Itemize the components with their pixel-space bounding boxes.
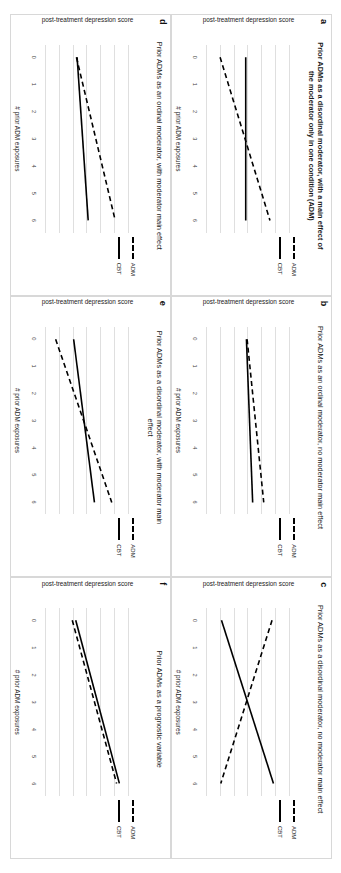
x-tick-label: 0 xyxy=(31,56,37,59)
x-tick-label: 2 xyxy=(192,392,198,395)
legend-label-cbt: CBT xyxy=(116,263,122,275)
x-tick-label: 2 xyxy=(31,110,37,113)
x-axis-ticks-c: 0123456 xyxy=(188,608,198,796)
legend-swatch-adm xyxy=(132,237,134,259)
series-layer-b xyxy=(200,327,297,515)
panel-letter-c: c xyxy=(319,582,329,587)
panel-e: ePrior ADMs as a disordinal moderator, w… xyxy=(10,296,171,578)
plot-area-a xyxy=(200,45,297,233)
legend-item-cbt: CBT xyxy=(273,800,287,852)
plot-area-d xyxy=(39,45,136,233)
legend-swatch-cbt xyxy=(118,800,120,822)
x-tick-label: 0 xyxy=(31,619,37,622)
x-tick-label: 2 xyxy=(31,673,37,676)
legend-label-cbt: CBT xyxy=(277,544,283,556)
legend-label-cbt: CBT xyxy=(116,826,122,838)
x-tick-label: 0 xyxy=(192,337,198,340)
x-tick-label: 1 xyxy=(192,83,198,86)
x-tick-label: 3 xyxy=(192,419,198,422)
x-tick-label: 5 xyxy=(31,755,37,758)
x-tick-label: 4 xyxy=(31,446,37,449)
panel-letter-f: f xyxy=(158,582,168,585)
legend-swatch-adm xyxy=(132,518,134,540)
x-tick-label: 2 xyxy=(31,392,37,395)
legend-label-adm: ADM xyxy=(130,263,136,276)
legend-swatch-adm xyxy=(293,518,295,540)
legend-label-adm: ADM xyxy=(291,826,297,839)
x-tick-label: 3 xyxy=(192,701,198,704)
x-tick-label: 0 xyxy=(192,56,198,59)
legend-item-adm: ADM xyxy=(287,518,301,570)
legend-label-adm: ADM xyxy=(130,544,136,557)
x-tick-label: 0 xyxy=(192,619,198,622)
panel-letter-a: a xyxy=(319,19,329,24)
legend-d: ADMCBT xyxy=(112,237,140,289)
x-tick-label: 1 xyxy=(31,83,37,86)
plot-area-f xyxy=(39,608,136,796)
series-layer-a xyxy=(200,45,297,233)
legend-swatch-cbt xyxy=(118,237,120,259)
series-layer-f xyxy=(39,608,136,796)
panel-letter-d: d xyxy=(158,19,168,25)
series-line-adm xyxy=(72,621,116,784)
panel-title-a: Prior ADMs as a disordinal moderator, wi… xyxy=(306,41,325,251)
legend-a: ADMCBT xyxy=(273,237,301,289)
series-line-cbt xyxy=(246,339,252,502)
x-axis-ticks-d: 0123456 xyxy=(27,45,37,233)
x-tick-label: 3 xyxy=(31,701,37,704)
panel-title-d: Prior ADMs as an ordinal moderator, with… xyxy=(155,41,164,251)
legend-swatch-cbt xyxy=(118,518,120,540)
y-axis-label-f: post-treatment depression score xyxy=(39,577,136,589)
x-tick-label: 1 xyxy=(31,365,37,368)
plot-area-e xyxy=(39,327,136,515)
legend-swatch-adm xyxy=(293,800,295,822)
legend-item-adm: ADM xyxy=(126,518,140,570)
panel-title-e: Prior ADMs as a disordinal moderator, wi… xyxy=(145,323,164,533)
legend-e: ADMCBT xyxy=(112,518,140,570)
panel-d: dPrior ADMs as an ordinal moderator, wit… xyxy=(10,14,171,296)
x-tick-label: 5 xyxy=(31,192,37,195)
x-tick-label: 1 xyxy=(31,646,37,649)
series-layer-d xyxy=(39,45,136,233)
plot-area-c xyxy=(200,608,297,796)
x-tick-label: 3 xyxy=(31,137,37,140)
panel-c: cPrior ADMs as a disordinal moderator, n… xyxy=(171,577,332,859)
x-tick-label: 5 xyxy=(192,192,198,195)
x-tick-label: 6 xyxy=(31,219,37,222)
series-line-cbt xyxy=(74,339,95,502)
panel-f: fPrior ADMs as a prognostic variablepost… xyxy=(10,577,171,859)
y-axis-label-b: post-treatment depression score xyxy=(200,296,297,308)
x-axis-ticks-f: 0123456 xyxy=(27,608,37,796)
series-layer-e xyxy=(39,327,136,515)
legend-item-cbt: CBT xyxy=(273,518,287,570)
x-axis-label-b: # prior ADM exposures xyxy=(175,327,182,515)
legend-swatch-adm xyxy=(293,237,295,259)
legend-item-cbt: CBT xyxy=(112,800,126,852)
plot-area-b xyxy=(200,327,297,515)
panel-title-f: Prior ADMs as a prognostic variable xyxy=(155,604,164,814)
x-tick-label: 2 xyxy=(192,673,198,676)
x-tick-label: 4 xyxy=(192,446,198,449)
panel-letter-e: e xyxy=(158,301,168,306)
legend-label-adm: ADM xyxy=(130,826,136,839)
y-axis-label-e: post-treatment depression score xyxy=(39,296,136,308)
x-tick-label: 1 xyxy=(192,646,198,649)
rotated-figure-wrapper: aPrior ADMs as a disordinal moderator, w… xyxy=(0,0,341,873)
y-axis-label-c: post-treatment depression score xyxy=(200,577,297,589)
series-layer-c xyxy=(200,608,297,796)
x-tick-label: 1 xyxy=(192,365,198,368)
legend-label-cbt: CBT xyxy=(277,263,283,275)
panel-letter-b: b xyxy=(319,301,329,307)
x-axis-ticks-b: 0123456 xyxy=(188,327,198,515)
y-axis-label-d: post-treatment depression score xyxy=(39,14,136,26)
panel-title-c: Prior ADMs as a disordinal moderator, no… xyxy=(316,604,325,814)
x-tick-label: 3 xyxy=(31,419,37,422)
x-tick-label: 6 xyxy=(192,219,198,222)
series-line-cbt xyxy=(76,621,120,784)
x-axis-ticks-e: 0123456 xyxy=(27,327,37,515)
x-tick-label: 4 xyxy=(31,728,37,731)
x-axis-label-e: # prior ADM exposures xyxy=(14,327,21,515)
x-tick-label: 5 xyxy=(192,755,198,758)
legend-f: ADMCBT xyxy=(112,800,140,852)
x-tick-label: 0 xyxy=(31,337,37,340)
